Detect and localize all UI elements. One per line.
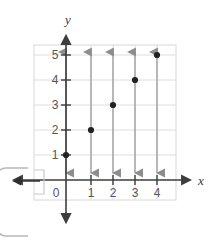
x-axis bbox=[14, 175, 190, 185]
y-tick-label-4: 4 bbox=[52, 73, 59, 87]
coordinate-plane-figure: 1 2 3 4 5 0 1 2 3 4 y x bbox=[0, 0, 220, 240]
data-point bbox=[154, 52, 160, 58]
callout-secondary-rect bbox=[34, 170, 44, 194]
y-axis-label: y bbox=[63, 12, 71, 27]
x-tick-label-3: 3 bbox=[132, 186, 139, 200]
y-axis bbox=[61, 36, 71, 222]
y-tick-labels: 1 2 3 4 5 bbox=[52, 48, 59, 162]
x-tick-label-2: 2 bbox=[110, 186, 117, 200]
x-axis-label: x bbox=[197, 173, 204, 188]
callout-rounded-rect bbox=[0, 168, 28, 236]
x-tick-label-0: 0 bbox=[53, 186, 60, 200]
data-point bbox=[132, 77, 138, 83]
data-point bbox=[110, 102, 116, 108]
callout-box bbox=[0, 168, 44, 236]
y-tick-label-3: 3 bbox=[52, 98, 59, 112]
x-tick-label-4: 4 bbox=[154, 186, 161, 200]
vertical-gridlines bbox=[91, 45, 157, 200]
y-tick-label-1: 1 bbox=[52, 148, 59, 162]
data-point bbox=[88, 127, 94, 133]
x-tick-labels: 0 1 2 3 4 bbox=[53, 186, 161, 200]
graph-canvas: 1 2 3 4 5 0 1 2 3 4 y x bbox=[0, 0, 220, 240]
data-point bbox=[63, 152, 69, 158]
x-tick-label-1: 1 bbox=[88, 186, 95, 200]
y-tick-label-2: 2 bbox=[52, 123, 59, 137]
y-tick-label-5: 5 bbox=[52, 48, 59, 62]
